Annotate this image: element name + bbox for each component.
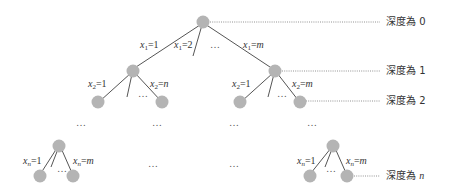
ellipsis-below-d2-4: … [307,117,317,128]
edge-label-bl-xn-1: xn=1 [22,155,42,168]
ellipsis-below-d2-2: … [152,117,162,128]
edge-d1r-mid [268,74,274,97]
ellipsis-below-d2-1: … [76,117,86,128]
tree-node-d1-left [127,65,140,78]
edge-label-right-x2-1: x2=1 [231,78,251,91]
tree-node-br-1 [304,170,317,183]
edge-label-bl-xn-m: xn=m [72,155,94,168]
edge-root-second [193,25,202,56]
ellipsis-bl-children: … [57,163,67,174]
edge-label-left-x2-n: x2=n [149,78,169,91]
tree-node-d2-4 [294,96,307,109]
edge-label-br-xn-m: xn=m [345,155,367,168]
ellipsis-bottom-mid-2: … [229,158,239,169]
depth-label-0: 深度為 0 [386,15,426,27]
edge-label-x1-2: x1=2 [173,39,193,52]
depth-label-2: 深度為 2 [386,94,426,106]
tree-node-d2-1 [92,96,105,109]
edge-bl-left [41,148,57,173]
tree-node-root [197,16,210,29]
tree-node-br-2 [341,170,354,183]
edge-br-right [335,148,346,173]
edge-label-right-x2-m: x2=m [291,78,313,91]
ellipsis-bottom-mid-1: … [148,158,158,169]
edge-label-br-xn-1: xn=1 [296,155,316,168]
tree-node-br-root [327,140,340,153]
tree-node-bl-root [53,140,66,153]
ellipsis-right-d1-children: … [277,88,287,99]
tree-node-d2-3 [234,96,247,109]
ellipsis-root-children: … [210,39,220,50]
search-tree-diagram: x1=1 x1=2 … x1=m x2=1 … x2=n x2=1 … x2=m… [0,0,452,192]
depth-label-n: 深度為 n [386,169,424,181]
edge-label-left-x2-1: x2=1 [87,78,107,91]
tree-node-bl-2 [67,170,80,183]
edge-d1l-mid [127,74,132,97]
ellipsis-below-d2-3: … [229,117,239,128]
ellipsis-br-children: … [326,163,336,174]
tree-node-bl-1 [34,170,47,183]
tree-node-d1-right [269,65,282,78]
tree-node-d2-2 [156,96,169,109]
edge-label-x1-1: x1=1 [139,39,159,52]
edge-label-x1-m: x1=m [242,39,264,52]
depth-label-1: 深度為 1 [386,64,426,76]
ellipsis-left-d1-children: … [138,88,148,99]
